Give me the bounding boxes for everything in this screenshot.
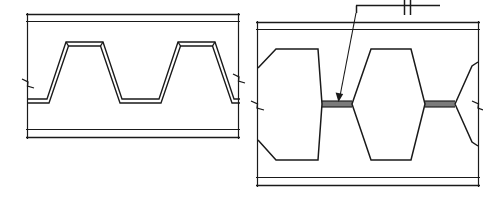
right-panel-cellular-beam <box>251 21 483 187</box>
weld-leader-line <box>340 13 356 96</box>
drawing-svg <box>0 0 483 204</box>
cellular-web-openings <box>258 49 478 160</box>
left-top-flange <box>26 15 240 22</box>
weld-annotation <box>336 0 440 102</box>
right-top-flange <box>256 23 480 30</box>
weld-2-web-post <box>425 101 455 107</box>
technical-drawing-canvas: Steel beam web elevation details Elevati… <box>0 0 483 204</box>
left-corrugated-web <box>28 42 240 103</box>
hex-opening-full-center <box>352 49 425 160</box>
weld-1-web-post <box>322 101 352 107</box>
left-bottom-flange <box>26 130 240 138</box>
weld-2-hatching <box>426 101 454 107</box>
weld-1-hatching <box>323 101 351 107</box>
hex-opening-partial-left <box>258 49 322 160</box>
corrugated-web-lower-edge <box>28 46 240 103</box>
left-panel-corrugated-web-beam <box>22 13 245 139</box>
hex-opening-partial-right <box>455 62 478 146</box>
right-bottom-flange <box>256 178 480 186</box>
right-panel-right-break-mark-icon <box>472 101 483 110</box>
